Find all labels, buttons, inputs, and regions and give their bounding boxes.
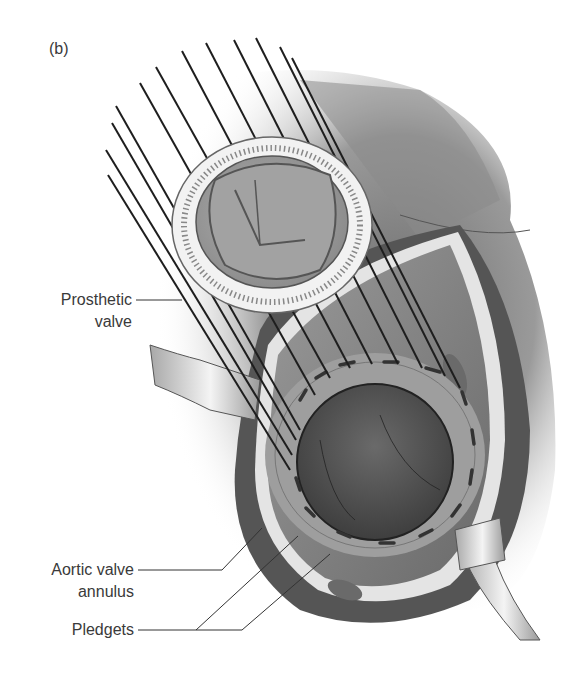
label-prosthetic-valve: Prosthetic valve xyxy=(61,289,132,333)
prosthetic-valve xyxy=(172,137,372,313)
surgical-illustration: (b) Prosthetic valve Aortic valve annulu… xyxy=(0,0,570,676)
panel-label: (b) xyxy=(49,40,69,58)
label-line: Pledgets xyxy=(72,619,134,641)
label-line: Prosthetic xyxy=(61,289,132,311)
aortic-valve-annulus xyxy=(265,353,485,557)
label-line: valve xyxy=(61,311,132,333)
label-line: annulus xyxy=(51,581,134,603)
label-line: Aortic valve xyxy=(51,559,134,581)
label-pledgets: Pledgets xyxy=(72,619,134,641)
label-aortic-valve-annulus: Aortic valve annulus xyxy=(51,559,134,603)
